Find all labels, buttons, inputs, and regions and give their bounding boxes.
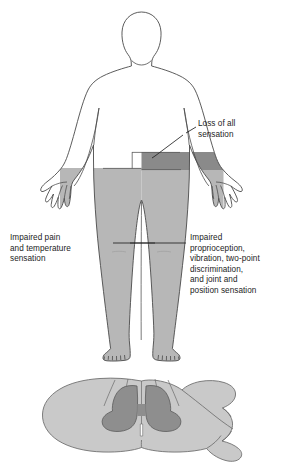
cord-white-matter: [42, 378, 241, 461]
impaired-pain-temperature-label: Impaired pain and temperature sensation: [10, 233, 110, 265]
sensory-deficit-figure: Loss of all sensation Impaired pain and …: [0, 0, 283, 475]
loss-of-all-sensation-band: [142, 152, 224, 170]
jawline: [132, 61, 152, 66]
impaired-proprioception-label: Impaired proprioception, vibration, two-…: [190, 233, 282, 297]
cord-gray-commissure: [137, 404, 145, 416]
loss-of-all-sensation-label: Loss of all sensation: [198, 119, 280, 140]
cord-central-canal: [140, 424, 142, 436]
spinal-cord-cross-section: [42, 378, 241, 461]
